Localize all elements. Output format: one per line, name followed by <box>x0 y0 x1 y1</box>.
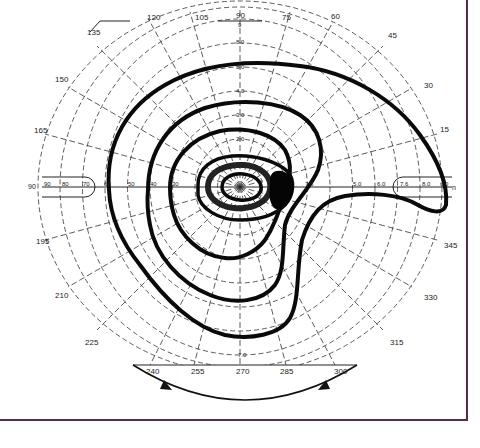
tick-top-80: 8.0 <box>236 39 245 45</box>
label-330: 330 <box>424 293 438 302</box>
left-axis-label: 90 <box>28 183 36 190</box>
tick-left-70: 70 <box>83 181 90 187</box>
label-120: 120 <box>147 13 161 22</box>
label-210: 210 <box>55 291 69 300</box>
label-270: 270 <box>236 367 250 376</box>
tick-right-end: n <box>452 184 456 191</box>
tick-right-70: 7.6 <box>400 181 409 187</box>
tick-right-a: 7.6 <box>305 181 314 187</box>
tick-right-50: 5.0 <box>353 181 362 187</box>
blind-spot <box>270 171 294 210</box>
label-165: 165 <box>34 126 48 135</box>
label-345: 345 <box>444 241 458 250</box>
label-195: 195 <box>36 237 50 246</box>
label-240: 240 <box>146 367 160 376</box>
label-105: 105 <box>195 13 209 22</box>
label-300: 300 <box>334 367 348 376</box>
isopter-second <box>147 102 321 301</box>
tick-top-20: 2.0 <box>236 136 245 142</box>
label-225: 225 <box>85 338 99 347</box>
label-135: 135 <box>87 28 101 37</box>
tick-left-60: 60 <box>104 181 111 187</box>
label-45: 45 <box>388 31 397 40</box>
label-30: 30 <box>424 81 433 90</box>
tick-left-90: 90 <box>44 181 51 187</box>
tick-top-90: 9 <box>238 22 242 28</box>
tick-top-30: 3.0 <box>236 112 245 118</box>
tick-right-60: 6.0 <box>377 181 386 187</box>
tick-left-80: 80 <box>62 181 69 187</box>
visual-field-chart: 15 30 45 60 75 90 105 120 135 150 165 19… <box>0 0 480 448</box>
label-75: 75 <box>282 13 291 22</box>
tick-left-50: 50 <box>128 181 135 187</box>
tick-right-80: 8.0 <box>422 181 431 187</box>
tick-right-60b: 6.0 <box>440 181 449 187</box>
label-15: 15 <box>440 125 449 134</box>
label-255: 255 <box>191 367 205 376</box>
tick-left-40: 40 <box>150 181 157 187</box>
label-150: 150 <box>55 75 69 84</box>
tick-left-30: 30 <box>172 181 179 187</box>
label-285: 285 <box>280 367 294 376</box>
label-315: 315 <box>390 338 404 347</box>
label-60: 60 <box>331 12 340 21</box>
tick-top-50: 5.0 <box>236 64 245 70</box>
tick-bottom-70: 7.0 <box>238 352 247 358</box>
figure-caption <box>10 440 470 448</box>
label-90: 90 <box>236 11 245 20</box>
meridian-labels: 15 30 45 60 75 90 105 120 135 150 165 19… <box>34 11 458 376</box>
tick-top-40: 4.0 <box>236 88 245 94</box>
